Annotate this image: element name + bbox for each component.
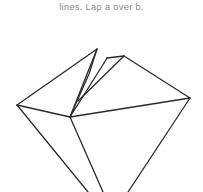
hub-to-notch [70,63,104,117]
hub-to-right-point [70,98,190,117]
diagram-line-group [17,49,190,192]
left-point-lower-edge [17,105,88,192]
notch-top-short [104,58,107,63]
origami-fold-diagram [0,0,203,192]
hub-lower-left-edge [70,117,103,192]
upper-left-edge [17,49,97,105]
diagram-page: lines. Lap a over b. [0,0,203,192]
right-peak-to-right-point [124,56,190,98]
right-point-lower-edge [128,98,190,192]
